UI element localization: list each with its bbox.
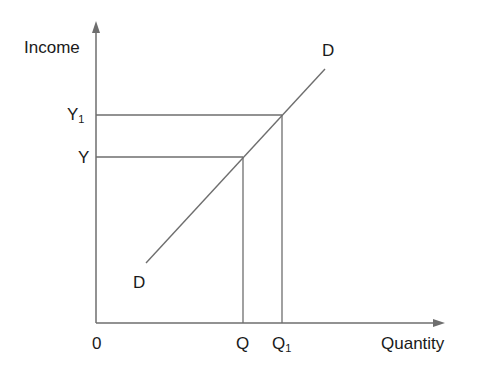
origin-label: 0: [92, 335, 101, 352]
x-axis-arrow-icon: [433, 319, 445, 327]
y-axis-label: Income: [24, 39, 80, 56]
y1-tick-label: Y1: [67, 106, 84, 125]
curve-label-bottom: D: [133, 274, 145, 291]
income-demand-curve: [146, 69, 325, 263]
y-axis-arrow-icon: [92, 21, 100, 33]
curve-label-top: D: [322, 42, 334, 59]
q1-tick-label: Q1: [272, 335, 291, 354]
x-axis-label: Quantity: [381, 335, 444, 352]
q-tick-label: Q: [236, 335, 249, 352]
y-tick-label: Y: [78, 149, 89, 166]
